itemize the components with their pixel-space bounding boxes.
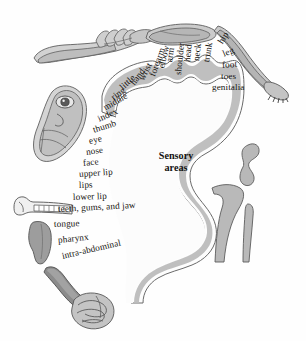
cortex-label-genitalia: genitalia: [212, 82, 245, 92]
intra-abdominal-organs-illustration: [72, 293, 114, 329]
cortex-label-tongue: tongue: [54, 218, 80, 229]
cortex-label-face: face: [82, 156, 99, 168]
sensory-areas-line-1: Sensory: [139, 150, 213, 162]
cortex-label-lips: lips: [79, 180, 93, 190]
cortex-label-toes: toes: [221, 71, 236, 81]
cortex-label-lower-lip: lower lip: [73, 191, 107, 202]
tongue-illustration: [29, 222, 52, 264]
lower-limb-illustrations: [212, 185, 253, 262]
genitalia-illustration: [240, 144, 259, 186]
sensory-homunculus-figure: genitaliatoesfootleghiptrunkneckheadshou…: [0, 0, 306, 341]
cortex-label-foot: foot: [222, 59, 238, 70]
sensory-areas-line-2: areas: [139, 162, 213, 174]
arm-and-hand-illustration: [34, 29, 156, 63]
head-and-face-illustration: [34, 86, 87, 162]
sensory-areas-caption: Sensory areas: [139, 150, 213, 174]
